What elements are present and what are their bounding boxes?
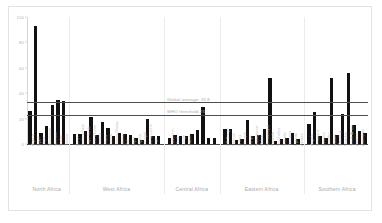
y-tick-label: 0 [21, 142, 24, 147]
group-separator [220, 17, 221, 194]
reference-line [27, 102, 368, 103]
y-tick-label: 80 [19, 40, 24, 45]
group-label: Central Africa [167, 186, 218, 192]
reference-line-label: WHO threshold 23 [167, 109, 205, 114]
group-label: Southern Africa [306, 186, 368, 192]
y-tick-label: 20 [19, 116, 24, 121]
y-tick-label: 40 [19, 91, 24, 96]
chart-figure: 020406080100 AlgeriaEgyptLibyaMauritania… [0, 0, 382, 223]
group-label: North Africa [27, 186, 66, 192]
group-label: Eastern Africa [222, 186, 301, 192]
group-separator [69, 17, 70, 194]
group-sections: North AfricaWest AfricaCentral AfricaEas… [27, 17, 368, 194]
group-separator [304, 17, 305, 194]
y-tick-label: 60 [19, 65, 24, 70]
y-tick-label: 100 [16, 15, 24, 20]
reference-line [27, 115, 368, 116]
group-label: West Africa [71, 186, 161, 192]
y-axis-ticks: 020406080100 [0, 0, 24, 223]
group-separator [164, 17, 165, 194]
reference-line-label: Global average: 32.8 [167, 97, 210, 102]
